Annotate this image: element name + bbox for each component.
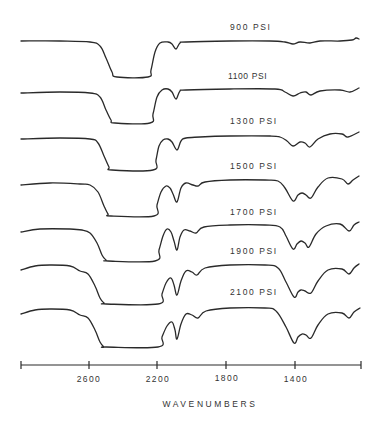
trace-1700psi <box>21 222 359 262</box>
tick-label-1400: 1400 <box>284 374 309 384</box>
trace-2100psi <box>21 308 360 348</box>
tick-label-2200: 2200 <box>146 374 171 384</box>
series-label-2100psi: 2100 PSI <box>230 287 278 297</box>
tick-label-1800: 1800 <box>215 373 240 383</box>
series-label-1300psi: 1300 PSI <box>230 116 278 126</box>
series-label-1900psi: 1900 PSI <box>230 246 278 256</box>
tick-label-2600: 2600 <box>77 374 102 384</box>
series-label-1500psi: 1500 PSI <box>230 161 278 171</box>
ir-spectra-chart <box>0 0 380 422</box>
x-axis <box>21 361 361 369</box>
trace-1900psi <box>21 264 359 305</box>
spectra-traces <box>21 38 360 348</box>
trace-1300psi <box>21 132 359 171</box>
series-label-900psi: 900 PSI <box>230 22 271 32</box>
trace-1100psi <box>21 88 359 124</box>
x-axis-title: WAVENUMBERS <box>162 399 257 409</box>
trace-900psi <box>21 38 359 78</box>
series-label-1700psi: 1700 PSI <box>230 207 278 217</box>
trace-1500psi <box>21 176 359 217</box>
series-label-1100psi: 1100 PSI <box>228 71 267 81</box>
